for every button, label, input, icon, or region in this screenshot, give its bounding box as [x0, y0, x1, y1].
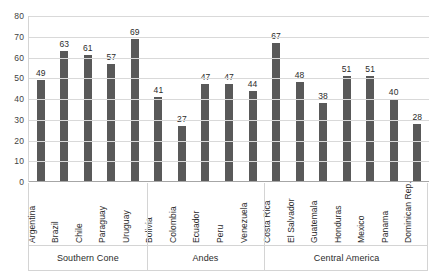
y-axis-tick-label: 40	[14, 94, 24, 104]
category-slot: El Salvador	[288, 183, 312, 245]
category-slot: Guatemala	[311, 183, 335, 245]
category-axis: ArgentinaBrazilChileParaguayUruguayBoliv…	[28, 183, 428, 245]
bar	[413, 124, 421, 182]
category-label: Uruguay	[121, 210, 131, 243]
bar-value-label: 49	[36, 68, 46, 78]
y-axis-tick-label: 80	[14, 11, 24, 21]
group-label-text: Andes	[192, 253, 218, 263]
y-axis-tick-label: 60	[14, 53, 24, 63]
group-divider	[147, 246, 148, 270]
group-label-southern-cone: Southern Cone	[29, 246, 147, 270]
bar-value-label: 51	[365, 64, 375, 74]
bar-value-label: 69	[130, 27, 140, 37]
category-slot: Panama	[382, 183, 406, 245]
category-slot: Brazil	[53, 183, 77, 245]
category-slot: Dominican Rep.	[405, 183, 429, 245]
y-axis: 01020304050607080	[0, 16, 28, 182]
gridline	[29, 141, 429, 142]
bar	[154, 97, 162, 182]
category-slot: Ecuador	[194, 183, 218, 245]
bar-value-label: 44	[248, 79, 258, 89]
bar-value-label: 61	[83, 43, 93, 53]
bar	[84, 55, 92, 182]
bar	[319, 103, 327, 182]
category-label: Venezuela	[239, 202, 249, 243]
bar-value-label: 40	[389, 87, 399, 97]
y-axis-tick-label: 20	[14, 136, 24, 146]
group-band: Southern ConeAndesCentral America	[28, 245, 428, 271]
y-axis-tick-label: 70	[14, 32, 24, 42]
category-slot: Costa Rica	[264, 183, 288, 245]
category-slot: Paraguay	[100, 183, 124, 245]
category-label: Colombia	[168, 206, 178, 243]
category-label: Argentina	[27, 206, 37, 243]
category-slot: Argentina	[29, 183, 53, 245]
bar	[296, 82, 304, 182]
bar-value-label: 51	[342, 64, 352, 74]
bar	[343, 76, 351, 182]
category-slot: Peru	[217, 183, 241, 245]
bar	[366, 76, 374, 182]
group-label-text: Southern Cone	[57, 253, 119, 263]
y-axis-tick-label: 30	[14, 115, 24, 125]
bar	[249, 91, 257, 182]
bar	[37, 80, 45, 182]
group-label-central-america: Central America	[264, 246, 429, 270]
category-label: Mexico	[356, 215, 366, 243]
category-label: Chile	[74, 223, 84, 243]
y-axis-tick-label: 0	[19, 177, 24, 187]
bar-value-label: 63	[59, 39, 69, 49]
category-slot: Mexico	[358, 183, 382, 245]
category-label: Dominican Rep.	[403, 181, 413, 243]
gridline	[29, 37, 429, 38]
group-divider	[264, 246, 265, 270]
gridline	[29, 161, 429, 162]
category-slot: Venezuela	[241, 183, 265, 245]
category-label: El Salvador	[286, 198, 296, 243]
group-label-text: Central America	[314, 253, 380, 263]
gridline	[29, 78, 429, 79]
category-label: Panama	[380, 211, 390, 243]
category-label: Ecuador	[191, 211, 201, 243]
y-axis-tick-label: 50	[14, 73, 24, 83]
plot-area: 4963615769412747474467483851514028	[28, 16, 429, 182]
group-divider	[264, 183, 265, 245]
gridline	[29, 16, 429, 17]
gridline	[29, 120, 429, 121]
gridline	[29, 58, 429, 59]
y-axis-tick-label: 10	[14, 156, 24, 166]
bar-chart: 01020304050607080 4963615769412747474467…	[0, 0, 433, 275]
group-divider	[147, 183, 148, 245]
group-label-andes: Andes	[147, 246, 265, 270]
bar	[178, 126, 186, 182]
category-label: Honduras	[333, 205, 343, 243]
bar	[107, 64, 115, 182]
x-axis-line	[29, 181, 429, 182]
category-label: Guatemala	[309, 201, 319, 243]
gridline	[29, 99, 429, 100]
category-slot: Bolivia	[147, 183, 171, 245]
category-label: Peru	[215, 225, 225, 243]
bar-value-label: 41	[154, 85, 164, 95]
category-label: Brazil	[50, 221, 60, 243]
category-label: Paraguay	[97, 206, 107, 243]
category-slot: Honduras	[335, 183, 359, 245]
bar	[60, 51, 68, 182]
